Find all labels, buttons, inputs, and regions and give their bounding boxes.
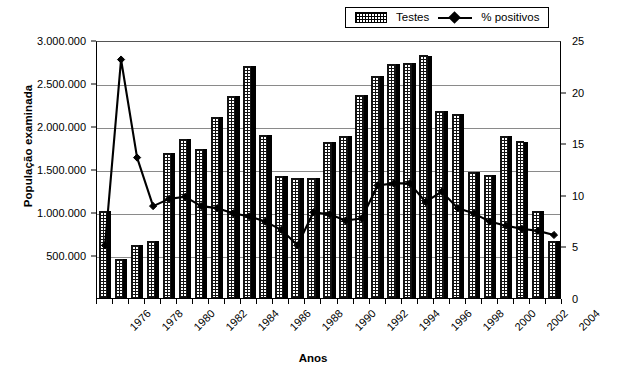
legend-label-testes: Testes <box>396 11 429 23</box>
line-marker-diamond <box>550 231 557 238</box>
x-axis-tick-mark <box>481 299 482 304</box>
x-axis-tick-mark <box>561 299 562 304</box>
x-axis-tick-label: 1998 <box>480 307 506 333</box>
y-axis-right-tick-mark <box>561 144 566 145</box>
x-axis-tick-mark <box>353 299 354 304</box>
x-axis-tick-label: 1986 <box>288 307 314 333</box>
line-marker-diamond <box>230 210 237 217</box>
x-axis-tick-mark <box>465 299 466 304</box>
x-axis-tick-mark <box>96 299 97 304</box>
line-marker-diamond <box>150 202 157 209</box>
line-marker-diamond <box>246 213 253 220</box>
y-axis-right-tick-label: 15 <box>572 138 606 150</box>
y-axis-right-tick-mark <box>561 195 566 196</box>
y-axis-left-tick-mark <box>91 84 96 85</box>
legend-swatch-line <box>438 12 472 23</box>
line-marker-diamond <box>470 210 477 217</box>
line-marker-diamond <box>262 218 269 225</box>
line-marker-diamond <box>534 227 541 234</box>
y-axis-left-tick-label: 1.000.000 <box>0 207 86 219</box>
x-axis-tick-mark <box>112 299 113 304</box>
y-axis-right-tick-label: 5 <box>572 241 606 253</box>
x-axis-tick-mark <box>369 299 370 304</box>
x-axis-tick-mark <box>417 299 418 304</box>
x-axis-tick-mark <box>128 299 129 304</box>
line-marker-diamond <box>518 225 525 232</box>
x-axis-tick-label: 1976 <box>127 307 153 333</box>
y-axis-right-ticks: 2520151050 <box>561 41 621 299</box>
chart-legend: Testes % positivos <box>345 7 549 28</box>
line-marker-diamond <box>342 217 349 224</box>
x-axis-tick-mark <box>304 299 305 304</box>
x-axis-ticks: 1976197819801982198419861988199019921994… <box>96 299 561 369</box>
line-marker-diamond <box>358 215 365 222</box>
x-axis-tick-mark <box>240 299 241 304</box>
x-axis-tick-label: 1982 <box>223 307 249 333</box>
y-axis-right-tick-label: 10 <box>572 190 606 202</box>
y-axis-left-tick-mark <box>91 170 96 171</box>
y-axis-left-tick-label: 500.000 <box>0 250 86 262</box>
y-axis-left-tick-mark <box>91 127 96 128</box>
x-axis-tick-label: 1996 <box>448 307 474 333</box>
x-axis-tick-mark <box>256 299 257 304</box>
x-axis-tick-mark <box>385 299 386 304</box>
x-axis-tick-mark <box>433 299 434 304</box>
chart-figure: População examinada % de portadores de S… <box>0 0 626 377</box>
line-marker-diamond <box>117 56 124 63</box>
y-axis-left-tick-label: 2.500.000 <box>0 78 86 90</box>
line-marker-diamond <box>214 205 221 212</box>
line-marker-diamond <box>133 154 140 161</box>
y-axis-right-tick-label: 0 <box>572 293 606 305</box>
x-axis-tick-mark <box>176 299 177 304</box>
y-axis-right-tick-mark <box>561 247 566 248</box>
x-axis-tick-mark <box>224 299 225 304</box>
plot-area <box>96 41 561 299</box>
line-marker-diamond <box>486 218 493 225</box>
x-axis-tick-label: 1992 <box>384 307 410 333</box>
line-marker-diamond <box>374 182 381 189</box>
x-axis-tick-mark <box>192 299 193 304</box>
y-axis-left-ticks: 3.000.0002.500.0002.000.0001.500.0001.00… <box>0 41 96 299</box>
x-axis-tick-label: 2002 <box>544 307 570 333</box>
y-axis-left-tick-mark <box>91 213 96 214</box>
x-axis-tick-label: 1994 <box>416 307 442 333</box>
legend-swatch-bars <box>355 12 387 23</box>
x-axis-tick-mark <box>545 299 546 304</box>
x-axis-tick-label: 1984 <box>255 307 281 333</box>
x-axis-tick-mark <box>272 299 273 304</box>
y-axis-left-tick-mark <box>91 256 96 257</box>
x-axis-tick-mark <box>449 299 450 304</box>
line-series-positivos <box>97 42 562 300</box>
line-marker-diamond <box>390 180 397 187</box>
line-marker-diamond <box>502 222 509 229</box>
line-marker-diamond <box>101 242 108 249</box>
line-marker-diamond <box>310 209 317 216</box>
x-axis-tick-label: 1990 <box>352 307 378 333</box>
y-axis-left-tick-mark <box>91 41 96 42</box>
x-axis-tick-label: 2000 <box>512 307 538 333</box>
x-axis-tick-mark <box>337 299 338 304</box>
y-axis-left-tick-label: 1.500.000 <box>0 164 86 176</box>
x-axis-tick-label: 2004 <box>576 307 602 333</box>
line-marker-diamond <box>326 211 333 218</box>
x-axis-tick-label: 1978 <box>159 307 185 333</box>
x-axis-tick-mark <box>513 299 514 304</box>
y-axis-right-tick-mark <box>561 92 566 93</box>
x-axis-tick-mark <box>529 299 530 304</box>
x-axis-tick-mark <box>497 299 498 304</box>
y-axis-right-tick-label: 25 <box>572 35 606 47</box>
y-axis-right-tick-label: 20 <box>572 87 606 99</box>
x-axis-tick-mark <box>144 299 145 304</box>
x-axis-tick-mark <box>320 299 321 304</box>
x-axis-tick-mark <box>401 299 402 304</box>
y-axis-left-tick-label: 2.000.000 <box>0 121 86 133</box>
x-axis-tick-label: 1988 <box>320 307 346 333</box>
x-axis-tick-mark <box>160 299 161 304</box>
y-axis-left-tick-label: 3.000.000 <box>0 35 86 47</box>
x-axis-tick-mark <box>208 299 209 304</box>
line-marker-diamond <box>166 195 173 202</box>
x-axis-tick-mark <box>288 299 289 304</box>
legend-label-positivos: % positivos <box>481 11 539 23</box>
x-axis-tick-label: 1980 <box>191 307 217 333</box>
